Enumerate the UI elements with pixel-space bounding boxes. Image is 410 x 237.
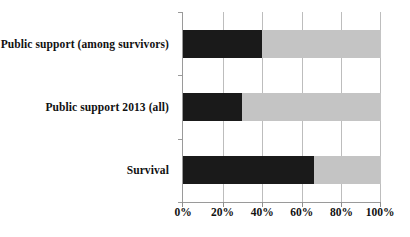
bar-segment-light-0 — [262, 30, 381, 58]
x-tick-label-40: 40% — [251, 206, 274, 218]
bar-segment-light-1 — [242, 93, 381, 121]
stacked-bar-public-support-2013 — [183, 93, 381, 121]
x-tick-label-80: 80% — [330, 206, 353, 218]
bar-segment-light-2 — [314, 156, 381, 184]
stacked-bar-survival — [183, 156, 381, 184]
bar-band-0 — [183, 12, 381, 75]
bar-segment-dark-0 — [183, 30, 262, 58]
category-axis-labels: Public support (among survivors) Public … — [0, 12, 176, 202]
bar-segment-dark-2 — [183, 156, 314, 184]
bar-band-2 — [183, 139, 381, 202]
x-axis-line — [182, 202, 381, 203]
bar-segment-dark-1 — [183, 93, 242, 121]
category-label-public-support-2013: Public support 2013 (all) — [0, 75, 176, 138]
plot-area — [183, 12, 381, 202]
chart-container: Public support (among survivors) Public … — [0, 0, 410, 237]
x-axis-tick-labels: 0% 20% 40% 60% 80% 100% — [183, 206, 381, 224]
x-tick-label-100: 100% — [366, 206, 395, 218]
category-label-public-support-survivors: Public support (among survivors) — [0, 12, 176, 75]
x-tick-label-20: 20% — [211, 206, 234, 218]
bar-band-1 — [183, 75, 381, 138]
x-tick-label-0: 0% — [174, 206, 191, 218]
x-tick-label-60: 60% — [290, 206, 313, 218]
category-label-survival: Survival — [0, 139, 176, 202]
stacked-bar-public-support-survivors — [183, 30, 381, 58]
